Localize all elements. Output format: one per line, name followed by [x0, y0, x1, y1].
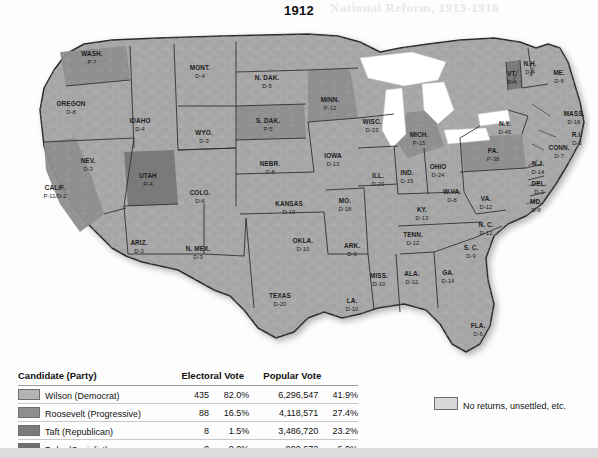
- state-result: D-10: [283, 209, 296, 215]
- state-result: D-10: [297, 246, 310, 252]
- popular-votes-cell: 4,118,571: [257, 404, 318, 422]
- state-name: CONN.: [548, 144, 569, 151]
- state-result: D-13: [416, 215, 429, 221]
- state-name: ALA.: [404, 270, 419, 277]
- popular-percent-cell: 41.9%: [318, 386, 358, 404]
- state-result: D-4: [525, 69, 535, 75]
- state-name: N. DAK.: [255, 74, 280, 81]
- state-result: R-4: [143, 181, 153, 187]
- state-result: D-20: [274, 301, 287, 307]
- state-result: D-7: [554, 153, 564, 159]
- state-result: D-12: [407, 240, 420, 246]
- table-row: Roosevelt (Progressive)8816.5%4,118,5712…: [18, 404, 358, 422]
- popular-percent-cell: 27.4%: [318, 404, 358, 422]
- state-result: P-38: [487, 156, 500, 162]
- state-result: P-5: [263, 126, 273, 132]
- state-result: R-4: [507, 79, 517, 85]
- state-result: D-14: [532, 169, 545, 175]
- state-name: OKLA.: [293, 237, 314, 244]
- state-name: WISC.: [363, 118, 382, 125]
- column-header-candidate: Candidate (Party): [18, 370, 168, 386]
- state-result: P-7: [87, 59, 96, 65]
- column-header-electoral-vote: Electoral Vote: [168, 370, 257, 386]
- state-name: GA.: [442, 269, 454, 276]
- state-name: TENN.: [403, 231, 423, 238]
- electoral-votes-cell: 435: [168, 386, 209, 404]
- state-name: WYO.: [195, 129, 213, 136]
- state-name: N.H.: [523, 60, 536, 67]
- state-name: TEXAS: [269, 292, 291, 299]
- state-result: D-6: [195, 198, 205, 204]
- electoral-votes-cell: 8: [168, 422, 209, 440]
- state-name: DEL.: [532, 180, 547, 187]
- candidate-color-swatch: [18, 425, 40, 436]
- state-result: D-8: [265, 169, 275, 175]
- state-result: D-18: [339, 206, 352, 212]
- state-result: P-15: [413, 140, 426, 146]
- state-result: D-3: [199, 138, 209, 144]
- candidate-name: Roosevelt (Progressive): [45, 409, 141, 419]
- table-row: Taft (Republican)81.5%3,486,72023.2%: [18, 422, 358, 440]
- state-name: NEBR.: [260, 160, 281, 167]
- election-map-page: National Reform, 1913-1916 1912: [0, 0, 598, 458]
- state-name: UTAH: [139, 172, 157, 179]
- state-result: D-14: [442, 278, 455, 284]
- state-result: D-8: [531, 207, 541, 213]
- candidate-color-swatch: [18, 389, 40, 400]
- state-name: IOWA: [324, 152, 342, 159]
- state-name: MO.: [339, 197, 351, 204]
- state-result: D-29: [372, 181, 385, 187]
- state-result: D-15: [401, 178, 414, 184]
- state-name: CALIF.: [45, 184, 66, 191]
- state-result: D-13: [366, 127, 379, 133]
- state-result: D-10: [346, 306, 359, 312]
- state-result: D-12: [480, 204, 493, 210]
- results-table-body: Wilson (Democrat)43582.0%6,296,54741.9%R…: [18, 386, 358, 458]
- state-result: P-12: [324, 105, 336, 111]
- state-name: MASS.: [564, 110, 585, 117]
- table-header-row: Candidate (Party) Electoral Vote Popular…: [18, 370, 358, 386]
- state-name: R.I.: [572, 131, 582, 138]
- us-election-map: WASH.P-7OREGOND-8IDAHOD-4MONT.D-4WYO.D-3…: [8, 18, 590, 368]
- state-result: D-6: [473, 331, 483, 337]
- electoral-percent-cell: 1.5%: [209, 422, 257, 440]
- candidate-name: Wilson (Democrat): [45, 391, 120, 401]
- state-name: N. C.: [478, 221, 493, 228]
- state-result: D-18: [568, 119, 581, 125]
- electoral-votes-cell: 88: [168, 404, 209, 422]
- state-name: MICH.: [410, 131, 429, 138]
- state-result: D-8: [66, 109, 76, 115]
- state-name: WASH.: [81, 50, 103, 57]
- no-returns-swatch: [434, 397, 458, 410]
- state-result: D-4: [135, 126, 145, 132]
- electoral-percent-cell: 16.5%: [209, 404, 257, 422]
- state-result: D-3: [534, 189, 544, 195]
- results-legend: Candidate (Party) Electoral Vote Popular…: [18, 370, 358, 458]
- state-name: VT.: [507, 70, 517, 77]
- state-name: MISS.: [370, 272, 388, 279]
- state-result: D-3: [134, 248, 144, 254]
- state-name: N.J.: [532, 160, 544, 167]
- state-result: D-13: [327, 161, 340, 167]
- state-name: MD.: [530, 198, 542, 205]
- state-result: D-5: [262, 83, 272, 89]
- state-result: D-10: [373, 281, 386, 287]
- page-title: 1912: [0, 3, 598, 18]
- state-name: OREGON: [56, 100, 85, 107]
- no-returns-label: No returns, unsettled, etc.: [463, 401, 566, 411]
- state-result: D-3: [83, 166, 93, 172]
- state-name: ARIZ.: [130, 239, 147, 246]
- state-name: VA.: [481, 195, 492, 202]
- popular-votes-cell: 3,486,720: [257, 422, 318, 440]
- no-returns-legend-item: No returns, unsettled, etc.: [434, 397, 566, 411]
- popular-votes-cell: 6,296,547: [257, 386, 318, 404]
- state-name: S. C.: [464, 244, 479, 251]
- state-name: ILL.: [372, 172, 384, 179]
- state-name: N. MEX.: [186, 245, 211, 252]
- state-result: D-24: [432, 172, 445, 178]
- state-name: KANSAS: [275, 200, 303, 207]
- state-name: LA.: [347, 297, 358, 304]
- state-result: D-8: [447, 197, 457, 203]
- state-result: D-4: [195, 73, 205, 79]
- state-name: IDAHO: [129, 117, 150, 124]
